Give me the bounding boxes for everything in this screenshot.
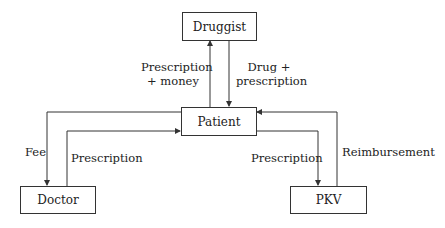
- pkv-node: PKV: [290, 186, 367, 214]
- druggist-label: Druggist: [193, 20, 246, 34]
- edge-label-reimbursement: Reimbursement: [342, 145, 435, 159]
- druggist-node: Druggist: [182, 12, 257, 41]
- edge-label-pkv-prescription: Prescription: [251, 151, 323, 165]
- patient-node: Patient: [181, 107, 257, 136]
- edge-label-prescription-money: Prescription + money: [141, 60, 205, 88]
- doctor-node: Doctor: [20, 186, 96, 214]
- patient-label: Patient: [197, 115, 240, 129]
- edge-label-fee: Fee: [25, 145, 46, 159]
- edge-label-doctor-prescription: Prescription: [71, 151, 143, 165]
- doctor-label: Doctor: [37, 193, 78, 207]
- edge-label-drug-prescription: Drug + prescription: [236, 60, 302, 88]
- pkv-label: PKV: [316, 193, 342, 207]
- arrow-pkv-to-patient: [257, 112, 337, 186]
